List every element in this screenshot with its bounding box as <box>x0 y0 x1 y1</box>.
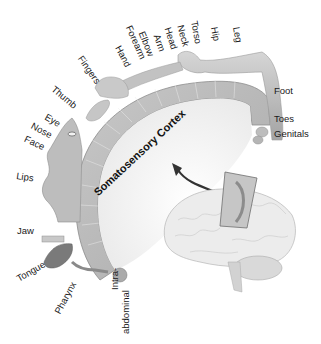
homunculus-thumb <box>86 100 110 121</box>
homunculus-genitals <box>253 136 263 144</box>
label-leg: Leg <box>232 26 244 43</box>
label-intra-abdominal-2: abdominal <box>121 290 131 334</box>
homunculus-toes <box>256 127 268 137</box>
label-toes: Toes <box>274 114 294 124</box>
homunculus-eye <box>68 132 76 136</box>
label-genitals: Genitals <box>274 129 309 139</box>
label-hip: Hip <box>210 26 222 42</box>
label-intra-abdominal-1: Intra- <box>110 268 120 290</box>
label-jaw: Jaw <box>17 226 34 236</box>
label-lips: Lips <box>16 171 35 183</box>
label-foot: Foot <box>274 86 293 96</box>
homunculus-tongue <box>44 244 73 268</box>
homunculus-jaw <box>42 236 64 242</box>
brain-stem <box>228 262 242 292</box>
homunculus-arm <box>120 62 183 90</box>
